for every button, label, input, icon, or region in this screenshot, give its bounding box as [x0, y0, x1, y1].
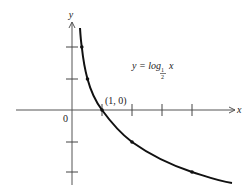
- x-axis-label: x: [236, 104, 242, 115]
- log-graph: y x 0 (1, 0) y = log 1 2 x: [0, 0, 251, 194]
- equation-label: y = log 1 2 x: [131, 60, 174, 80]
- log-curve: [80, 28, 232, 183]
- point-annotation: (1, 0): [105, 95, 127, 107]
- origin-label: 0: [63, 113, 68, 124]
- svg-text:y = log: y = log: [131, 60, 161, 71]
- y-axis-label: y: [68, 9, 74, 20]
- base-denominator: 2: [161, 74, 164, 80]
- equation-arg: x: [168, 60, 174, 71]
- base-numerator: 1: [161, 67, 164, 73]
